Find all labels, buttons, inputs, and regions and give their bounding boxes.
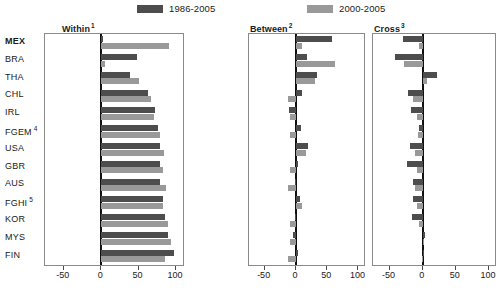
- bar-cross-gbr-s1: [407, 161, 423, 167]
- bar-cross-bra-s2: [404, 61, 423, 67]
- legend-swatch-1986-2005: [137, 5, 163, 13]
- bar-between-kor-s1: [295, 214, 296, 220]
- country-label-kor: KOR: [0, 215, 41, 224]
- bar-cross-kor-s1: [412, 214, 423, 220]
- country-code: MEX: [5, 36, 25, 46]
- bar-within-irl-s1: [101, 107, 155, 113]
- panel-footnote-marker: 1: [91, 22, 95, 29]
- country-label-mys: MYS: [0, 233, 41, 242]
- bar-within-chl-s1: [101, 90, 148, 96]
- country-code: THA: [5, 72, 24, 82]
- bar-within-kor-s1: [101, 214, 165, 220]
- country-code: FGEM: [5, 127, 32, 137]
- legend-item-2000-2005: 2000-2005: [307, 4, 385, 14]
- bar-cross-mex-s2: [419, 43, 422, 49]
- bar-cross-mex-s1: [403, 36, 423, 42]
- bar-within-gbr-s1: [101, 161, 159, 167]
- x-tick-label-0: 0: [80, 271, 120, 280]
- country-label-tha: THA: [0, 73, 41, 82]
- chart-legend: 1986-2005 2000-2005: [0, 0, 503, 20]
- bar-cross-kor-s2: [419, 221, 423, 227]
- bar-within-chl-s2: [101, 96, 151, 102]
- bar-cross-tha-s1: [423, 72, 438, 78]
- bar-between-kor-s2: [290, 221, 296, 227]
- x-tick-label-100: 100: [468, 271, 503, 280]
- bar-between-tha-s2: [296, 78, 315, 84]
- bar-within-gbr-s2: [101, 167, 163, 173]
- country-code: USA: [5, 143, 24, 153]
- plot-area-between: [248, 33, 365, 266]
- bar-within-mys-s2: [101, 239, 171, 245]
- bar-within-fgem-s2: [101, 132, 160, 138]
- bar-between-aus-s1: [295, 179, 296, 185]
- x-tick-label--50: -50: [43, 271, 83, 280]
- bar-within-fgem-s1: [101, 125, 158, 131]
- country-label-bra: BRA: [0, 55, 41, 64]
- bar-between-irl-s1: [289, 107, 296, 113]
- bar-cross-mys-s1: [423, 232, 425, 238]
- country-footnote-marker: 5: [29, 196, 33, 203]
- country-footnote-marker: 4: [34, 125, 38, 132]
- bar-within-bra-s2: [101, 61, 105, 67]
- bar-between-chl-s2: [288, 96, 296, 102]
- bar-within-tha-s1: [101, 72, 129, 78]
- bar-cross-fghi-s1: [413, 196, 423, 202]
- country-label-fgem: FGEM4: [0, 126, 41, 137]
- country-label-fghi: FGHI5: [0, 197, 41, 208]
- bar-between-mex-s1: [296, 36, 332, 42]
- bar-between-fin-s1: [296, 250, 299, 256]
- bar-cross-fgem-s2: [418, 132, 423, 138]
- bar-cross-fghi-s2: [417, 203, 422, 209]
- bar-within-fin-s2: [101, 256, 165, 262]
- bar-within-bra-s1: [101, 54, 137, 60]
- country-label-gbr: GBR: [0, 162, 41, 171]
- bar-cross-usa-s2: [415, 150, 422, 156]
- bar-between-aus-s2: [288, 185, 296, 191]
- bar-between-irl-s2: [290, 114, 296, 120]
- bar-cross-fin-s2: [422, 256, 423, 262]
- bar-cross-bra-s1: [395, 54, 423, 60]
- bar-between-bra-s2: [296, 61, 335, 67]
- bar-between-fin-s2: [288, 256, 296, 262]
- bar-between-mys-s1: [293, 232, 296, 238]
- bar-between-mys-s2: [290, 239, 296, 245]
- bar-between-tha-s1: [296, 72, 317, 78]
- country-label-aus: AUS: [0, 179, 41, 188]
- country-code: GBR: [5, 161, 25, 171]
- bar-within-aus-s2: [101, 185, 166, 191]
- bar-within-mex-s1: [101, 36, 102, 42]
- bar-between-bra-s1: [296, 54, 307, 60]
- legend-label-2000-2005: 2000-2005: [339, 4, 385, 14]
- bar-between-usa-s1: [296, 143, 309, 149]
- bar-between-fghi-s1: [296, 196, 300, 202]
- bar-within-usa-s1: [101, 143, 160, 149]
- bar-between-usa-s2: [296, 150, 306, 156]
- plot-area-within: [44, 33, 184, 266]
- bar-within-kor-s2: [101, 221, 168, 227]
- bar-between-fghi-s2: [296, 203, 302, 209]
- bar-within-fghi-s1: [101, 196, 163, 202]
- bar-between-gbr-s1: [296, 161, 298, 167]
- bar-within-usa-s2: [101, 150, 164, 156]
- bar-cross-tha-s2: [423, 78, 427, 84]
- country-label-usa: USA: [0, 144, 41, 153]
- bar-within-mex-s2: [101, 43, 168, 49]
- country-code: MYS: [5, 232, 25, 242]
- bar-within-tha-s2: [101, 78, 138, 84]
- bar-cross-fin-s1: [423, 250, 424, 256]
- country-label-mex: MEX: [0, 37, 41, 46]
- country-label-chl: CHL: [0, 90, 41, 99]
- country-code: AUS: [5, 178, 24, 188]
- country-label-fin: FIN: [0, 251, 41, 260]
- country-code: CHL: [5, 89, 24, 99]
- panel-footnote-marker: 2: [289, 22, 293, 29]
- bar-between-gbr-s2: [290, 167, 296, 173]
- bar-within-fghi-s2: [101, 203, 162, 209]
- country-code: IRL: [5, 107, 20, 117]
- country-code: KOR: [5, 214, 25, 224]
- panel-footnote-marker: 3: [401, 22, 405, 29]
- country-code: FIN: [5, 250, 20, 260]
- legend-swatch-2000-2005: [307, 5, 333, 13]
- x-tick-label-50: 50: [118, 271, 158, 280]
- bar-between-fgem-s2: [290, 132, 296, 138]
